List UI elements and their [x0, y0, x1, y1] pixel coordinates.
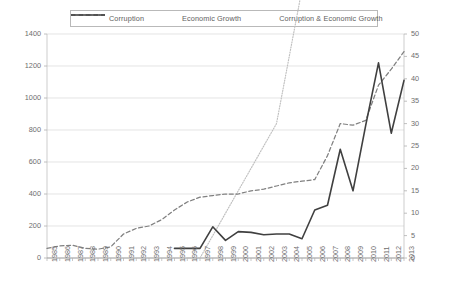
x-axis-tick-label: 2013 [407, 246, 416, 262]
x-axis-tick-label: 2007 [331, 246, 340, 262]
y-axis-tick-label: 0 [0, 253, 41, 262]
x-axis-tick-label: 1993 [152, 246, 161, 262]
y2-axis-tick-label: 25 [411, 141, 419, 150]
x-axis-tick-label: 1987 [76, 246, 85, 262]
series-line-0 [187, 0, 404, 258]
x-axis-tick-label: 2010 [369, 246, 378, 262]
y-axis-tick-label: 1000 [0, 93, 41, 102]
x-axis-tick-label: 1985 [50, 246, 59, 262]
y2-axis-tick-label: 15 [411, 186, 419, 195]
y-axis-tick-label: 400 [0, 189, 41, 198]
y2-axis-tick-label: 35 [411, 96, 419, 105]
x-axis-tick-label: 2009 [356, 246, 365, 262]
y-axis-tick-label: 600 [0, 157, 41, 166]
x-axis-tick-label: 2012 [394, 246, 403, 262]
y2-axis-tick-label: 40 [411, 74, 419, 83]
x-axis-tick-label: 1995 [178, 246, 187, 262]
y2-axis-tick-label: 20 [411, 163, 419, 172]
y2-axis-tick-label: 10 [411, 208, 419, 217]
x-axis-tick-label: 2011 [382, 247, 391, 262]
chart-container: Corruption Economic Growth Corruption & … [0, 0, 450, 289]
x-axis-tick-label: 1991 [127, 246, 136, 262]
series-line-2 [175, 63, 405, 249]
y-axis-tick-label: 800 [0, 125, 41, 134]
x-axis-tick-label: 2006 [318, 246, 327, 262]
y2-axis-tick-label: 45 [411, 51, 419, 60]
x-axis-tick-label: 2003 [280, 246, 289, 262]
x-axis-tick-label: 1992 [139, 246, 148, 262]
x-axis-tick-label: 2005 [305, 246, 314, 262]
x-axis-tick-label: 2001 [254, 246, 263, 262]
x-axis-tick-label: 1986 [63, 246, 72, 262]
x-axis-tick-label: 1996 [190, 246, 199, 262]
series-line-1 [47, 52, 404, 250]
y2-axis-tick-label: 30 [411, 119, 419, 128]
x-axis-tick-label: 1994 [165, 246, 174, 262]
x-axis-tick-label: 2000 [241, 246, 250, 262]
x-axis-tick-label: 1989 [101, 246, 110, 262]
y-axis-tick-label: 200 [0, 221, 41, 230]
x-axis-tick-label: 1997 [203, 246, 212, 262]
y-axis-tick-label: 1200 [0, 61, 41, 70]
x-axis-tick-label: 2002 [267, 246, 276, 262]
x-axis-tick-label: 1998 [216, 246, 225, 262]
x-axis-tick-label: 2008 [343, 246, 352, 262]
y2-axis-tick-label: 50 [411, 29, 419, 38]
x-axis-tick-label: 1990 [114, 246, 123, 262]
x-axis-tick-label: 1988 [88, 246, 97, 262]
x-axis-tick-label: 1999 [229, 246, 238, 262]
x-axis-tick-label: 2004 [292, 246, 301, 262]
y2-axis-tick-label: 5 [411, 231, 415, 240]
y-axis-tick-label: 1400 [0, 29, 41, 38]
